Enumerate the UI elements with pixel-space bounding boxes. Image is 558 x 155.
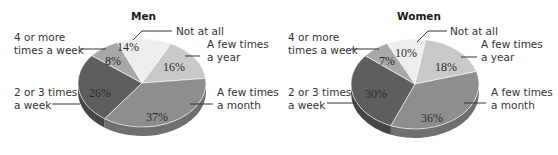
men-pie-chart: 14% 16% 37% 26% 8% Men Not at all A few …	[0, 0, 279, 155]
women-chart-title: Women	[397, 10, 441, 22]
men-label-four-more-week: 4 or more times a week	[14, 31, 84, 56]
men-pct-four-more-week: 8%	[105, 54, 121, 68]
men-chart-title: Men	[131, 10, 156, 22]
men-label-few-month: A few times a month	[217, 86, 279, 111]
men-pct-few-month: 37%	[146, 110, 168, 124]
men-label-few-year: A few times a year	[207, 38, 269, 63]
women-pct-four-more-week: 7%	[379, 54, 395, 68]
men-label-two-three-week: 2 or 3 times a week	[14, 86, 77, 111]
women-pct-few-month: 36%	[421, 111, 443, 125]
women-pct-not-at-all: 10%	[395, 46, 417, 60]
women-label-four-more-week: 4 or more times a week	[288, 31, 358, 56]
men-pie-graphic: 14% 16% 37% 26% 8%	[0, 0, 279, 155]
women-pct-few-year: 18%	[435, 60, 457, 74]
women-label-two-three-week: 2 or 3 times a week	[288, 86, 351, 111]
women-pct-two-three-week: 30%	[365, 87, 387, 101]
men-pct-two-three-week: 26%	[89, 86, 111, 100]
men-pct-few-year: 16%	[163, 60, 185, 74]
women-label-few-year: A few times a year	[481, 38, 543, 63]
women-label-few-month: A few times a month	[491, 86, 553, 111]
men-pct-not-at-all: 14%	[117, 40, 139, 54]
women-label-not-at-all: Not at all	[450, 25, 498, 38]
women-pie-chart: 10% 18% 36% 30% 7% Women Not at all A fe…	[279, 0, 558, 155]
men-label-not-at-all: Not at all	[176, 25, 224, 38]
women-pie-graphic: 10% 18% 36% 30% 7%	[279, 0, 558, 155]
